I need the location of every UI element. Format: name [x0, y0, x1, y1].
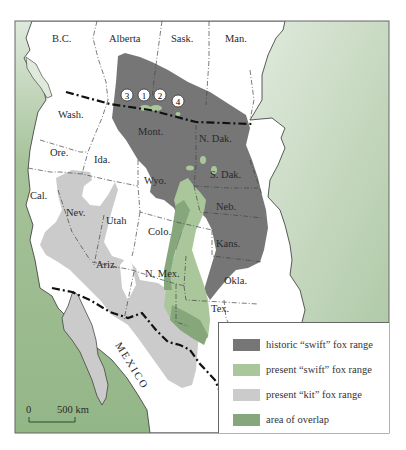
- label-bc: B.C.: [52, 33, 71, 44]
- label-mont: Mont.: [138, 126, 163, 137]
- label-sdak: S. Dak.: [210, 169, 241, 180]
- marker-4: 4: [176, 97, 181, 107]
- overlap-swatch: [233, 414, 260, 426]
- label-nev: Nev.: [66, 207, 85, 218]
- present-swift-swatch: [233, 364, 260, 376]
- present-swift-patch: [176, 112, 181, 116]
- marker-2: 2: [158, 91, 163, 101]
- legend-item-historic-swift: historic “swift” fox range: [233, 332, 389, 357]
- legend-item-present-kit: present “kit” fox range: [233, 382, 389, 407]
- label-colo: Colo.: [148, 226, 171, 237]
- label-ida: Ida.: [94, 154, 110, 165]
- label-wash: Wash.: [58, 109, 84, 120]
- label-okla: Okla.: [224, 275, 247, 286]
- label-nmex: N. Mex.: [145, 268, 180, 279]
- label-ore: Ore.: [50, 147, 68, 158]
- present-kit-swatch: [233, 389, 260, 401]
- label-sask: Sask.: [171, 33, 193, 44]
- present-swift-patch: [200, 156, 206, 164]
- label-neb: Neb.: [216, 201, 236, 212]
- marker-1: 1: [142, 91, 147, 101]
- label-cal: Cal.: [30, 190, 47, 201]
- label-alberta: Alberta: [109, 33, 141, 44]
- label-man: Man.: [225, 33, 247, 44]
- svg-text:500 km: 500 km: [57, 404, 89, 415]
- label-utah: Utah: [106, 215, 127, 226]
- label-ndak: N. Dak.: [199, 133, 232, 144]
- svg-text:0: 0: [26, 404, 31, 415]
- marker-3: 3: [125, 91, 130, 101]
- label-kans: Kans.: [216, 238, 240, 249]
- present-swift-patch: [186, 166, 194, 171]
- map-legend: historic “swift” fox range present “swif…: [218, 322, 389, 433]
- label-ariz: Ariz.: [96, 259, 117, 270]
- label-tex: Tex.: [211, 303, 229, 314]
- legend-item-overlap: area of overlap: [233, 407, 389, 432]
- legend-item-present-swift: present “swift” fox range: [233, 357, 389, 382]
- historic-swift-swatch: [233, 339, 260, 351]
- label-wyo: Wyo.: [144, 175, 166, 186]
